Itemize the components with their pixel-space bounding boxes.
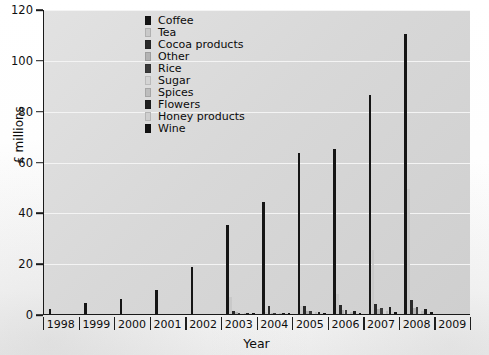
bar-wine-2003 (252, 313, 255, 314)
legend-item-label: Sugar (158, 75, 190, 86)
legend-item-label: Spices (158, 87, 194, 98)
y-tick-label: 0 (26, 308, 33, 322)
legend-item-tea[interactable]: Tea (145, 26, 245, 38)
y-tick-mark (36, 9, 43, 11)
x-tick-label: 2001 (154, 318, 182, 331)
x-tick-separator (257, 317, 258, 330)
y-axis: £ millions 020406080100120 (0, 0, 43, 325)
legend-item-label: Other (158, 51, 189, 62)
x-tick-separator (114, 317, 115, 330)
bar-coffee-2006 (333, 149, 336, 314)
legend-item-rice[interactable]: Rice (145, 62, 245, 74)
y-tick-label: 100 (11, 54, 33, 68)
chart-root: £ millions 020406080100120 Year 19981999… (0, 0, 489, 355)
x-tick-separator (399, 317, 400, 330)
legend-item-label: Coffee (158, 15, 194, 26)
legend-item-label: Honey products (158, 111, 245, 122)
y-tick-mark (36, 162, 43, 164)
legend-swatch-icon (145, 88, 151, 97)
legend-swatch-icon (145, 52, 151, 61)
bar-coffee-2000 (120, 299, 123, 314)
x-tick-separator (363, 317, 364, 330)
legend-swatch-icon (145, 76, 151, 85)
legend-item-label: Wine (158, 123, 185, 134)
legend-swatch-icon (145, 16, 151, 25)
x-tick-separator (221, 317, 222, 330)
y-tick-label: 20 (18, 257, 33, 271)
bar-wine-2008 (430, 312, 433, 314)
y-tick-mark (36, 263, 43, 265)
legend-item-honey-products[interactable]: Honey products (145, 111, 245, 123)
x-tick-label: 2005 (296, 318, 324, 331)
legend-swatch-icon (145, 40, 151, 49)
x-tick-separator (434, 317, 435, 330)
x-tick-label: 2003 (225, 318, 253, 331)
plot-area (43, 10, 470, 315)
bar-tea-2008 (407, 189, 410, 314)
bar-coffee-2005 (298, 153, 301, 314)
y-tick-mark (36, 60, 43, 62)
bar-coffee-1999 (84, 303, 87, 314)
x-axis-title: Year (43, 336, 470, 351)
x-axis: Year 19981999200020012002200320042005200… (43, 315, 470, 355)
legend-item-label: Flowers (158, 99, 200, 110)
gridline (44, 10, 470, 11)
legend-swatch-icon (145, 100, 151, 109)
x-tick-label: 2008 (403, 318, 431, 331)
bar-wine-2004 (288, 313, 291, 314)
y-tick-mark (36, 213, 43, 215)
legend-item-coffee[interactable]: Coffee (145, 14, 245, 26)
chart-legend: CoffeeTeaCocoa productsOtherRiceSugarSpi… (145, 14, 245, 135)
legend-swatch-icon (145, 112, 151, 121)
x-tick-separator (150, 317, 151, 330)
legend-item-flowers[interactable]: Flowers (145, 99, 245, 111)
y-tick-label: 80 (18, 105, 33, 119)
legend-item-cocoa-products[interactable]: Cocoa products (145, 38, 245, 50)
x-tick-label: 1999 (82, 318, 110, 331)
x-tick-label: 1998 (47, 318, 75, 331)
legend-item-label: Cocoa products (158, 39, 243, 50)
y-tick-mark (36, 314, 43, 316)
legend-swatch-icon (145, 124, 151, 133)
x-tick-label: 2002 (189, 318, 217, 331)
legend-item-other[interactable]: Other (145, 50, 245, 62)
bar-coffee-2002 (191, 267, 194, 314)
x-tick-separator (470, 317, 471, 330)
y-axis-title: £ millions (12, 80, 26, 190)
x-tick-separator (43, 317, 44, 330)
x-tick-label: 2009 (438, 318, 466, 331)
legend-item-spices[interactable]: Spices (145, 87, 245, 99)
x-tick-label: 2000 (118, 318, 146, 331)
bar-wine-2005 (323, 313, 326, 314)
bar-wine-2007 (394, 312, 397, 314)
legend-swatch-icon (145, 64, 151, 73)
x-tick-label: 2004 (260, 318, 288, 331)
bar-coffee-1998 (49, 309, 52, 314)
legend-item-label: Tea (158, 27, 176, 38)
legend-item-wine[interactable]: Wine (145, 123, 245, 135)
legend-item-sugar[interactable]: Sugar (145, 74, 245, 86)
y-tick-label: 60 (18, 156, 33, 170)
x-tick-separator (79, 317, 80, 330)
bar-coffee-2004 (262, 202, 265, 314)
x-tick-label: 2007 (367, 318, 395, 331)
y-tick-label: 40 (18, 206, 33, 220)
x-tick-separator (292, 317, 293, 330)
x-tick-separator (185, 317, 186, 330)
bar-coffee-2001 (155, 290, 158, 314)
legend-swatch-icon (145, 28, 151, 37)
bar-wine-2006 (359, 313, 362, 314)
x-tick-label: 2006 (331, 318, 359, 331)
x-tick-separator (328, 317, 329, 330)
y-tick-mark (36, 111, 43, 113)
legend-item-label: Rice (158, 63, 182, 74)
y-tick-label: 120 (11, 3, 33, 17)
